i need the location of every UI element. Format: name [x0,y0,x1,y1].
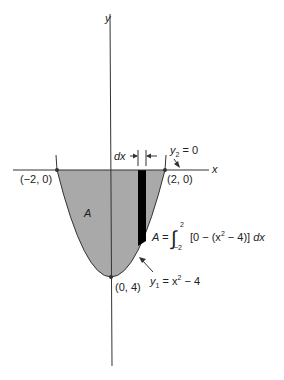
integral-lower: −2 [174,244,182,251]
integral-body: [0 − (x2 − 4)] dx [190,230,265,243]
integral-dx: dx [253,231,265,243]
y1-pointer [142,260,153,272]
parabola-tail-right [165,155,166,170]
point-right [163,168,167,172]
y1-equation: y1 = x2 − 4 [149,274,200,289]
dx-label: dx [114,150,126,162]
y2-pointer-head [174,161,180,168]
y2-equation: y2 = 0 [169,144,198,158]
region-label: A [83,207,91,219]
point-vertex-label: (0, 4) [115,281,141,293]
y1-rest: = x [159,275,178,287]
parabola-tail-left [56,155,57,170]
point-left-label: (−2, 0) [20,173,52,185]
integral-A: A = [151,231,169,243]
rectangle-strip [138,170,146,246]
y2-rest: = 0 [179,144,198,156]
y1-tail: − 4 [181,275,200,287]
dx-arrowhead-right [146,154,151,159]
point-left [55,168,59,172]
integral-lhs: A = [151,231,169,243]
integral-body-a: [0 − (x [190,231,221,243]
point-vertex [109,275,113,279]
y1-pointer-head [139,257,146,263]
integral-upper: 2 [180,221,184,228]
dx-arrowhead-left [133,154,138,159]
area-diagram: y x (−2, 0) (2, 0) (0, 4) A dx y2 = 0 y1… [0,0,284,380]
point-right-label: (2, 0) [167,173,193,185]
x-axis-label: x [211,163,218,175]
integral-body-b: − 4)] [225,231,253,243]
y-axis-label: y [104,12,112,24]
